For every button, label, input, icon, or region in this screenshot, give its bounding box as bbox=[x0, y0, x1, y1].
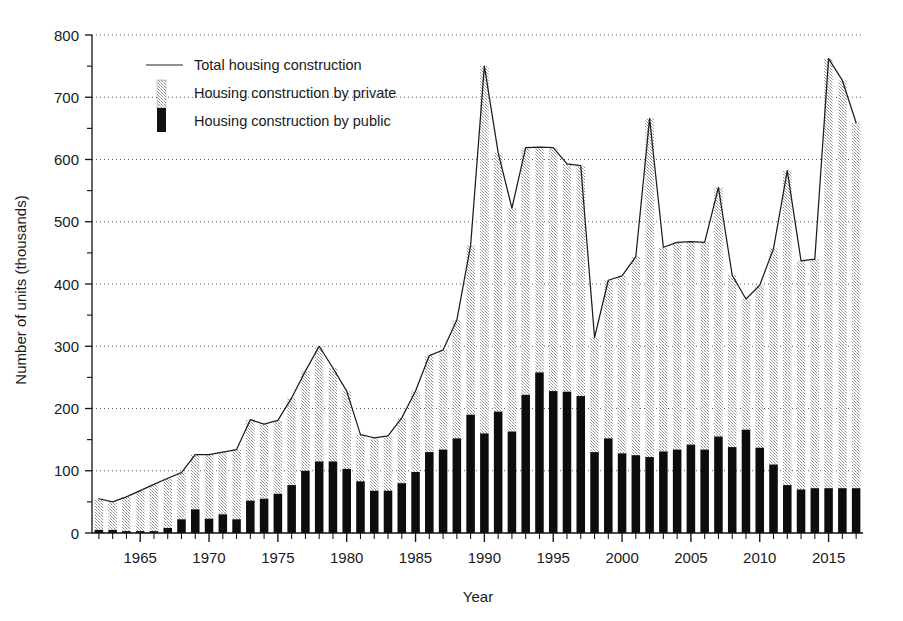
bar-public-2009 bbox=[742, 430, 751, 533]
bar-private-2009 bbox=[742, 299, 751, 430]
bar-private-1986 bbox=[425, 356, 434, 452]
y-tick-labels: 0100200300400500600700800 bbox=[54, 27, 79, 542]
bar-private-2013 bbox=[797, 261, 806, 489]
bar-public-1979 bbox=[329, 461, 338, 533]
bar-private-1964 bbox=[122, 497, 131, 531]
bar-public-1986 bbox=[425, 452, 434, 533]
y-tick-label-400: 400 bbox=[54, 276, 79, 293]
y-tick-label-600: 600 bbox=[54, 151, 79, 168]
bar-public-2004 bbox=[673, 450, 682, 533]
x-tick-label-2010: 2010 bbox=[743, 549, 776, 566]
chart-canvas: 0100200300400500600700800 19651970197519… bbox=[0, 0, 903, 621]
bar-public-1977 bbox=[301, 471, 310, 533]
x-tick-label-1965: 1965 bbox=[124, 549, 157, 566]
bar-private-1996 bbox=[563, 164, 572, 392]
chart-background bbox=[0, 0, 903, 621]
bar-private-1968 bbox=[177, 473, 186, 520]
bar-public-1978 bbox=[315, 461, 324, 533]
x-tick-label-1995: 1995 bbox=[537, 549, 570, 566]
bar-public-1989 bbox=[466, 415, 475, 533]
bar-public-2005 bbox=[687, 445, 696, 533]
bar-public-1985 bbox=[411, 472, 420, 533]
bar-private-1973 bbox=[246, 420, 255, 501]
bar-public-2011 bbox=[769, 465, 778, 533]
bar-private-2006 bbox=[700, 242, 709, 449]
x-tick-label-1970: 1970 bbox=[192, 549, 225, 566]
bar-private-1972 bbox=[232, 450, 241, 520]
bar-public-2010 bbox=[755, 448, 764, 533]
legend-label-public: Housing construction by public bbox=[194, 113, 391, 129]
x-tick-label-2000: 2000 bbox=[605, 549, 638, 566]
bar-public-1993 bbox=[521, 395, 530, 533]
bar-private-2001 bbox=[632, 257, 641, 456]
bar-public-1983 bbox=[384, 491, 393, 533]
y-tick-label-0: 0 bbox=[71, 525, 79, 542]
bar-public-1981 bbox=[356, 481, 365, 533]
x-axis-title: Year bbox=[463, 588, 493, 605]
bar-public-2002 bbox=[645, 457, 654, 533]
bar-private-1962 bbox=[95, 499, 104, 530]
bar-public-2013 bbox=[797, 489, 806, 533]
bar-private-2016 bbox=[838, 80, 847, 488]
x-tick-label-2005: 2005 bbox=[674, 549, 707, 566]
x-tick-label-1980: 1980 bbox=[330, 549, 363, 566]
bar-private-2012 bbox=[783, 171, 792, 485]
bar-private-1978 bbox=[315, 346, 324, 461]
y-tick-label-700: 700 bbox=[54, 89, 79, 106]
bar-private-2000 bbox=[618, 276, 627, 453]
bar-public-1975 bbox=[274, 494, 283, 533]
bar-private-1999 bbox=[604, 280, 613, 438]
bar-public-1970 bbox=[205, 519, 214, 533]
bar-private-1967 bbox=[163, 478, 172, 528]
bar-public-1982 bbox=[370, 491, 379, 533]
bar-public-1996 bbox=[563, 392, 572, 533]
bar-public-2012 bbox=[783, 485, 792, 533]
bar-private-1980 bbox=[342, 391, 351, 469]
bar-private-1990 bbox=[480, 66, 489, 433]
bar-public-1974 bbox=[260, 499, 269, 533]
bar-public-1987 bbox=[439, 450, 448, 533]
bar-private-1989 bbox=[466, 245, 475, 414]
bar-private-2005 bbox=[687, 242, 696, 445]
bar-private-2004 bbox=[673, 242, 682, 449]
bar-public-1994 bbox=[535, 372, 544, 533]
bar-private-2015 bbox=[824, 59, 833, 489]
bar-private-1979 bbox=[329, 368, 338, 461]
bar-private-1966 bbox=[150, 484, 159, 531]
bar-private-1991 bbox=[494, 153, 503, 412]
bar-public-2007 bbox=[714, 437, 723, 533]
bar-public-1973 bbox=[246, 501, 255, 533]
bar-private-2003 bbox=[659, 247, 668, 451]
bar-private-1970 bbox=[205, 455, 214, 519]
bar-private-1975 bbox=[274, 420, 283, 493]
bar-private-1981 bbox=[356, 435, 365, 482]
bar-private-2014 bbox=[811, 259, 820, 488]
bar-public-1999 bbox=[604, 438, 613, 533]
bar-public-1971 bbox=[219, 514, 228, 533]
bar-public-2003 bbox=[659, 451, 668, 533]
bar-private-2008 bbox=[728, 275, 737, 447]
bar-private-1992 bbox=[508, 208, 517, 431]
y-axis-title: Number of units (thousands) bbox=[12, 195, 29, 384]
bar-public-1980 bbox=[342, 469, 351, 533]
bar-private-1976 bbox=[287, 398, 296, 485]
bar-public-2000 bbox=[618, 453, 627, 533]
bar-public-1998 bbox=[590, 452, 599, 533]
bar-private-1974 bbox=[260, 424, 269, 499]
bar-private-1963 bbox=[108, 502, 117, 530]
y-tick-label-800: 800 bbox=[54, 27, 79, 44]
bar-public-1990 bbox=[480, 433, 489, 533]
bar-public-2001 bbox=[632, 455, 641, 533]
bar-private-1977 bbox=[301, 371, 310, 471]
x-tick-label-1990: 1990 bbox=[468, 549, 501, 566]
legend-label-total: Total housing construction bbox=[194, 57, 362, 73]
y-tick-label-500: 500 bbox=[54, 213, 79, 230]
bar-private-1985 bbox=[411, 391, 420, 472]
bar-private-1993 bbox=[521, 148, 530, 395]
bar-private-2011 bbox=[769, 249, 778, 465]
bar-public-1984 bbox=[398, 483, 407, 533]
bar-private-1988 bbox=[453, 320, 462, 438]
bar-public-2014 bbox=[811, 488, 820, 533]
bar-private-1965 bbox=[136, 491, 145, 531]
bar-private-2017 bbox=[852, 123, 861, 488]
